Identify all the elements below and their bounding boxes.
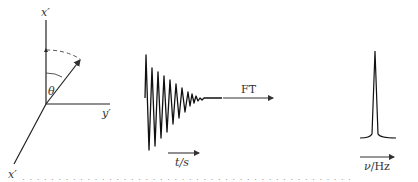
angle-arc [46,73,62,77]
nmr-diagram: x′ y′ x′ θ t/s FT ν/Hz [0,0,418,182]
spectrum-peak [360,51,396,138]
x-axis-label: x′ [8,168,17,181]
nu-symbol: ν [364,160,371,173]
theta-label: θ [48,85,55,98]
y-axis-label: y′ [101,107,111,120]
frequency-axis-label: ν/Hz [364,160,390,173]
x-axis [14,104,46,164]
cut-off-caption: · · · · · · · · · · · · · · · · · · · · … [22,174,418,182]
fourier-transform: FT [223,83,273,98]
fid-signal: t/s [145,55,222,169]
z-axis-label: x′ [41,6,50,19]
spectrum: ν/Hz [360,51,396,173]
rotating-frame: x′ y′ x′ θ [8,6,111,181]
ft-label: FT [241,83,257,96]
time-axis-label: t/s [175,156,189,169]
precession-arc [46,50,80,59]
fid-waveform [145,55,222,150]
